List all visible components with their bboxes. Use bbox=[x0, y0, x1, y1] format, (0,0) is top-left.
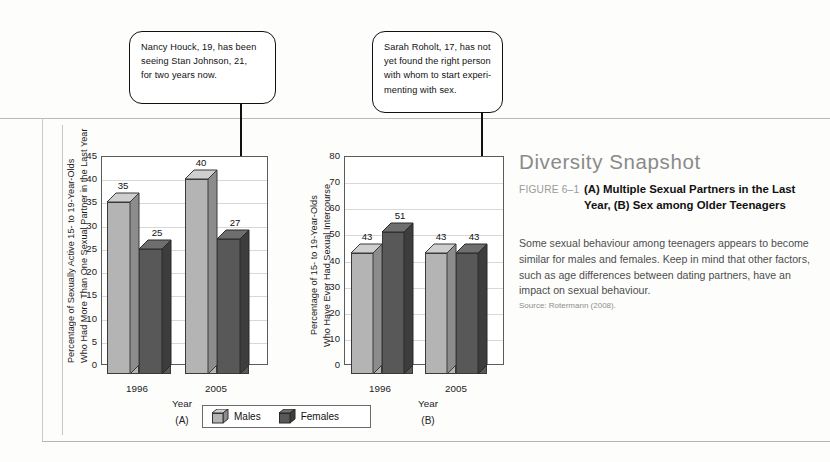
chart-b-bar-males-1996 bbox=[351, 244, 382, 374]
legend-label-males: Males bbox=[234, 411, 261, 422]
chart-b-ylabel-line1: Percentage of 15- to 19-Year-Olds bbox=[308, 170, 321, 360]
figure-page: Nancy Houck, 19, has been seeing Stan Jo… bbox=[0, 0, 830, 462]
diversity-snapshot-title: Diversity Snapshot bbox=[519, 150, 701, 174]
chart-b-ytick-40: 40 bbox=[321, 256, 340, 266]
females-swatch-icon bbox=[279, 409, 296, 424]
chart-b-ytick-20: 20 bbox=[321, 308, 340, 318]
legend-item-females: Females bbox=[279, 409, 339, 424]
chart-legend: Males Females bbox=[202, 405, 371, 428]
chart-b-xcat-2005: 2005 bbox=[421, 383, 491, 394]
page-divider-bottom bbox=[42, 441, 830, 442]
figure-number: FIGURE 6–1 bbox=[519, 184, 579, 195]
males-swatch-icon bbox=[212, 409, 229, 424]
chart-b-ytick-10: 10 bbox=[321, 334, 340, 344]
chart-b-panel-letter: (B) bbox=[383, 415, 473, 426]
legend-item-males: Males bbox=[212, 409, 261, 424]
chart-b-label-males-1996: 43 bbox=[347, 231, 387, 242]
diversity-snapshot-body: Some sexual behaviour among teenagers ap… bbox=[519, 236, 811, 299]
chart-b-gridline bbox=[345, 183, 503, 184]
chart-b: Percentage of 15- to 19-Year-Olds Who Ha… bbox=[0, 0, 560, 430]
chart-b-bar-females-1996 bbox=[382, 223, 413, 374]
figure-caption: (A) Multiple Sexual Partners in the Last… bbox=[584, 182, 810, 213]
chart-b-label-females-2005: 43 bbox=[454, 231, 494, 242]
legend-label-females: Females bbox=[301, 411, 339, 422]
chart-b-ytick-30: 30 bbox=[321, 282, 340, 292]
chart-b-xcat-1996: 1996 bbox=[345, 383, 415, 394]
chart-b-ytick-80: 80 bbox=[321, 151, 340, 161]
diversity-snapshot-source: Source: Rotermann (2008). bbox=[519, 301, 616, 310]
chart-b-bar-males-2005 bbox=[425, 244, 456, 374]
chart-b-bar-females-2005 bbox=[456, 244, 487, 374]
chart-b-xaxis-title: Year bbox=[383, 398, 473, 409]
chart-b-ytick-70: 70 bbox=[321, 177, 340, 187]
chart-b-label-females-1996: 51 bbox=[380, 210, 420, 221]
chart-b-gridline bbox=[345, 209, 503, 210]
chart-b-ytick-50: 50 bbox=[321, 229, 340, 239]
chart-b-ytick-0: 0 bbox=[321, 360, 340, 370]
chart-b-ytick-60: 60 bbox=[321, 203, 340, 213]
